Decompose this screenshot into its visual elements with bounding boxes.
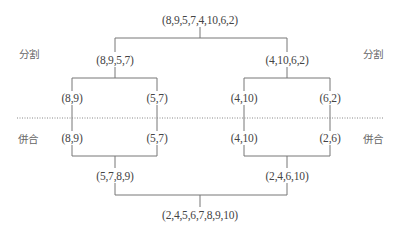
merge-level2-node-1: (8,9) (61, 132, 82, 144)
merge-level2-node-2: (5,7) (146, 132, 167, 144)
merge-level1-node-right: (2,4,6,10) (265, 170, 308, 182)
connector-lines (0, 0, 401, 235)
merge-label-left: 併合 (18, 131, 38, 146)
split-root-node: (8,9,5,7,4,10,6,2) (162, 14, 238, 26)
merge-level1-node-left: (5,7,8,9) (96, 170, 133, 182)
merge-level2-node-3: (4,10) (231, 132, 258, 144)
merge-root-node: (2,4,5,6,7,8,9,10) (162, 209, 238, 221)
split-level1-node-right: (4,10,6,2) (265, 54, 308, 66)
split-level2-node-2: (5,7) (146, 92, 167, 104)
split-label-right: 分割 (363, 46, 383, 61)
split-level1-node-left: (8,9,5,7) (96, 54, 133, 66)
split-label-left: 分割 (19, 46, 39, 61)
split-level2-node-4: (6,2) (319, 92, 340, 104)
merge-label-right: 併合 (363, 131, 383, 146)
merge-level2-node-4: (2,6) (319, 132, 340, 144)
merge-sort-diagram: 分割 分割 併合 併合 (8,9,5,7,4,10,6,2) (8,9,5,7)… (0, 0, 401, 235)
split-level2-node-1: (8,9) (61, 92, 82, 104)
split-level2-node-3: (4,10) (231, 92, 258, 104)
